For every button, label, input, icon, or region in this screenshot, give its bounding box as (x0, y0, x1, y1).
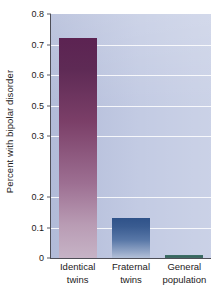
x-axis-category-label-line: twins (51, 274, 104, 287)
y-axis-tick-label: 0.5 (31, 101, 44, 110)
x-axis-category-label-line: Identical (51, 261, 104, 274)
x-axis-category-label: Identicaltwins (51, 261, 104, 286)
y-axis-tick-label: 0 (39, 254, 44, 263)
x-axis-category-label-line: Fraternal (104, 261, 157, 274)
y-axis-tick-label: 0.7 (31, 40, 44, 49)
x-axis-category-label: Fraternaltwins (104, 261, 157, 286)
x-axis-category-label: Generalpopulation (158, 261, 211, 286)
x-axis-category-label-line: General (158, 261, 211, 274)
bipolar-twin-concordance-bar-chart: Percent with bipolar disorder 0.80.70.60… (0, 0, 219, 303)
y-axis-tick-label: 0.1 (31, 223, 44, 232)
bar (112, 218, 150, 258)
y-axis-line (50, 14, 51, 259)
x-axis-line (50, 258, 211, 259)
x-axis-category-label-line: population (158, 274, 211, 287)
y-axis-tick-label: 0.2 (31, 193, 44, 202)
y-axis-tick-labels: 0.80.70.60.50.30.20.10 (18, 14, 48, 258)
plot-area (51, 14, 211, 258)
x-axis-category-labels: IdenticaltwinsFraternaltwinsGeneralpopul… (51, 261, 211, 303)
x-axis-category-label-line: twins (104, 274, 157, 287)
y-axis-tick-label: 0.6 (31, 71, 44, 80)
y-axis-title-text: Percent with bipolar disorder (5, 69, 16, 192)
bar (59, 38, 97, 258)
y-axis-title: Percent with bipolar disorder (0, 0, 20, 262)
y-axis-tick-label: 0.3 (31, 132, 44, 141)
y-axis-tick-label: 0.8 (31, 10, 44, 19)
